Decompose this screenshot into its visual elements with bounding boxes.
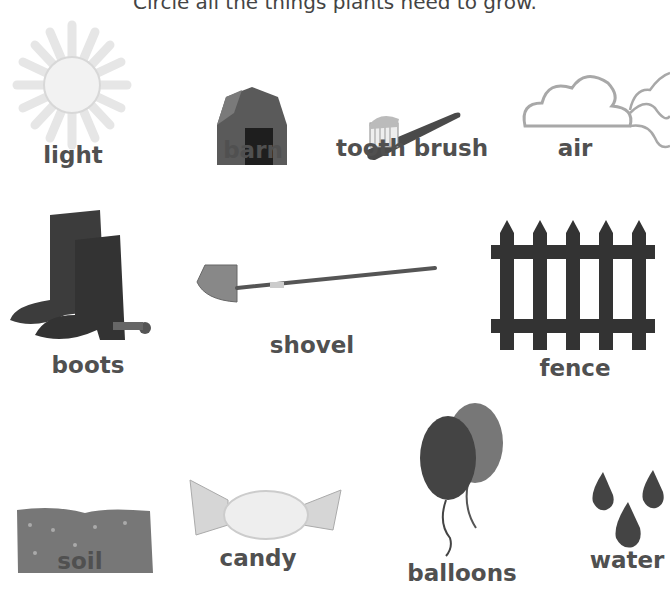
label-balloons: balloons xyxy=(407,560,516,586)
label-boots: boots xyxy=(52,352,125,378)
shovel-icon xyxy=(195,260,440,310)
label-candy: candy xyxy=(220,545,297,571)
label-light: light xyxy=(43,142,103,168)
water-drops-icon xyxy=(588,470,668,555)
balloons-icon xyxy=(408,398,508,558)
fence-icon xyxy=(490,215,655,350)
label-water: water xyxy=(590,547,665,573)
label-barn: barn xyxy=(223,137,283,163)
boots-icon xyxy=(5,200,155,345)
label-shovel: shovel xyxy=(270,332,354,358)
label-tooth-brush: tooth brush xyxy=(336,135,488,161)
label-air: air xyxy=(558,135,593,161)
label-fence: fence xyxy=(539,355,610,381)
candy-icon xyxy=(188,475,343,545)
instruction-text: Circle all the things plants need to gro… xyxy=(0,0,670,14)
sun-icon xyxy=(15,20,130,160)
cloud-wind-icon xyxy=(520,68,670,158)
label-soil: soil xyxy=(57,548,102,574)
